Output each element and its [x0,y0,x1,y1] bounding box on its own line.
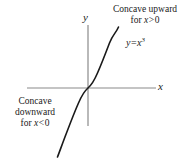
concave-downward-value: 0 [45,118,50,128]
concave-upward-line1: Concave upward [103,4,187,15]
concave-upward-for-word: for [131,15,144,25]
concave-upward-value: 0 [155,15,160,25]
x-axis-label: x [158,81,163,92]
concave-downward-for-word: for [21,118,34,128]
y-axis-label: y [83,12,88,23]
concave-downward-line2: downward [2,107,68,118]
equation-label: y=x3 [126,37,145,48]
concave-downward-line1: Concave [2,96,68,107]
concavity-figure: y x Concave upward for x>0 Concave downw… [0,0,190,161]
concave-upward-annotation: Concave upward for x>0 [103,4,187,26]
concave-downward-annotation: Concave downward for x<0 [2,96,68,130]
equation-rhs-exponent: 3 [142,36,146,44]
concave-downward-line3: for x<0 [2,118,68,129]
concave-upward-line2: for x>0 [103,15,187,26]
